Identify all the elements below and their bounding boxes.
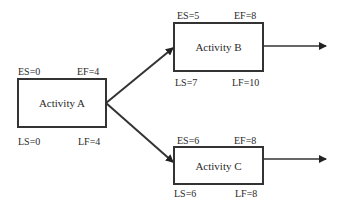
activity-b-ef: EF=8 [234, 11, 256, 21]
activity-b-node: Activity B [173, 22, 264, 72]
activity-b-ls: LS=7 [175, 78, 197, 88]
activity-c-node: Activity C [173, 146, 264, 185]
activity-b-es: ES=5 [177, 11, 199, 21]
activity-a-es: ES=0 [18, 67, 40, 77]
activity-c-lf: LF=8 [235, 189, 257, 199]
activity-a-label: Activity A [39, 97, 85, 109]
edge-a-to-c [106, 103, 173, 162]
activity-c-label: Activity C [195, 160, 241, 172]
edge-a-to-b [106, 48, 173, 103]
activity-a-ls: LS=0 [18, 137, 40, 147]
activity-c-ls: LS=6 [174, 189, 196, 199]
activity-b-lf: LF=10 [232, 78, 259, 88]
activity-a-node: Activity A [17, 78, 107, 128]
activity-a-ef: EF=4 [77, 67, 99, 77]
activity-a-lf: LF=4 [78, 137, 100, 147]
activity-c-ef: EF=8 [234, 136, 256, 146]
activity-b-label: Activity B [195, 41, 241, 53]
activity-c-es: ES=6 [177, 136, 199, 146]
